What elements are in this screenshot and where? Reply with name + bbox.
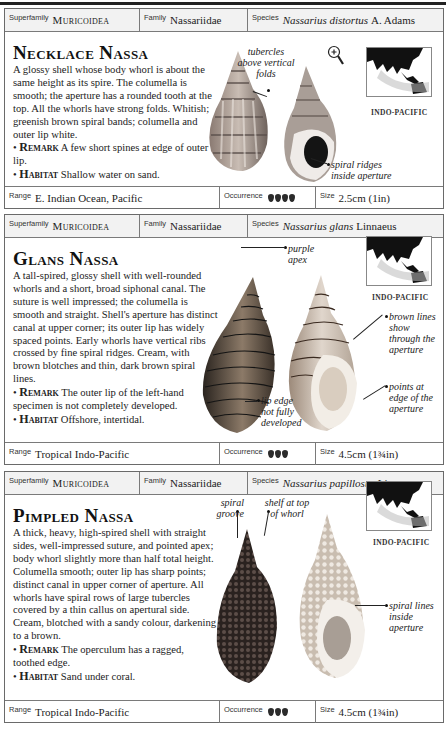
description-text: A tall-spired, glossy shell with well-ro… xyxy=(13,270,218,386)
occurrence-label: Occurrence xyxy=(224,447,263,456)
size-cell: Size 2.5cm (1in) xyxy=(315,187,443,209)
family-label: Family xyxy=(144,219,166,228)
range-cell: Range Tropical Indo-Pacific xyxy=(5,443,219,465)
annotation-spiral-ridges: spiral ridges inside aperture xyxy=(331,159,401,181)
remark-line: • Remark The outer lip of the left-hand … xyxy=(13,386,218,413)
occurrence-cell: Occurrence xyxy=(219,701,315,723)
annotation-points-edge: points at edge of the aperture xyxy=(389,381,443,414)
annotation-dot xyxy=(385,604,388,607)
superfamily-label: Superfamily xyxy=(9,13,49,22)
occurrence-shell-icon xyxy=(282,450,288,458)
size-label: Size xyxy=(320,191,335,200)
superfamily-value: Muricoidea xyxy=(53,220,110,232)
annotation-tubercles: tubercles above vertical folds xyxy=(237,46,295,79)
occurrence-shell-icon xyxy=(282,194,288,202)
habitat-label: Habitat xyxy=(19,412,58,426)
details-row: Range E. Indian Ocean, Pacific Occurrenc… xyxy=(5,186,443,209)
occurrence-cell: Occurrence xyxy=(219,187,315,209)
annotation-lip-edge: lip edge not fully developed xyxy=(261,395,305,428)
distribution-map xyxy=(366,236,432,286)
size-label: Size xyxy=(320,447,335,456)
size-cell: Size 4.5cm (1¾in) xyxy=(315,701,443,723)
size-label: Size xyxy=(320,705,335,714)
superfamily-cell: Superfamily Muricoidea xyxy=(5,9,139,31)
annotation-leader xyxy=(241,247,284,248)
annotation-shelf: shelf at top of whorl xyxy=(263,497,311,519)
species-author: Linnaeus xyxy=(356,220,396,232)
annotation-dot xyxy=(257,399,260,402)
classification-row: Superfamily Muricoidea Family Nassariida… xyxy=(5,215,443,238)
details-row: Range Tropical Indo-Pacific Occurrence S… xyxy=(5,442,443,465)
remark-label: Remark xyxy=(19,642,58,656)
size-value: 2.5cm (1in) xyxy=(339,192,390,204)
species-name: Nassarius glans xyxy=(283,220,354,232)
family-cell: Family Nassariidae xyxy=(139,215,247,237)
entry-title: Glans Nassa xyxy=(13,248,119,270)
entry-description: A glossy shell whose body whorl is about… xyxy=(13,64,213,182)
range-label: Range xyxy=(9,705,31,714)
annotation-dot xyxy=(327,163,330,166)
occurrence-rating xyxy=(268,450,288,458)
range-value: Tropical Indo-Pacific xyxy=(35,706,129,718)
species-label: Species xyxy=(252,476,279,485)
map-caption: INDO-PACIFIC xyxy=(373,538,429,547)
entry-title: Necklace Nassa xyxy=(13,42,148,64)
description-text: A thick, heavy, high-spired shell with s… xyxy=(13,527,218,643)
entry-description: A thick, heavy, high-spired shell with s… xyxy=(13,527,218,684)
distribution-map xyxy=(366,481,432,531)
entry-title: Pimpled Nassa xyxy=(13,505,134,527)
superfamily-label: Superfamily xyxy=(9,476,49,485)
range-cell: Range E. Indian Ocean, Pacific xyxy=(5,187,219,209)
occurrence-rating xyxy=(268,708,288,716)
habitat-label: Habitat xyxy=(19,669,58,683)
entry-pimpled-nassa: Superfamily Muricoidea Family Nassariida… xyxy=(4,471,444,723)
occurrence-shell-icon xyxy=(275,194,281,202)
superfamily-value: Muricoidea xyxy=(53,477,110,489)
map-caption: INDO-PACIFIC xyxy=(372,293,428,302)
occurrence-shell-icon xyxy=(268,450,274,458)
annotation-purple-apex: purple apex xyxy=(288,243,328,265)
species-author: A. Adams xyxy=(371,14,415,26)
remark-line: • Remark The operculum has a ragged, too… xyxy=(13,643,218,670)
distribution-map xyxy=(366,47,432,97)
shell-image-apertural xyxy=(293,512,371,682)
remark-line: • Remark A few short spines at edge of o… xyxy=(13,141,213,168)
annotation-leader xyxy=(237,512,238,538)
species-label: Species xyxy=(252,219,279,228)
map-caption: INDO-PACIFIC xyxy=(371,108,427,117)
habitat-text: Offshore, intertidal. xyxy=(61,414,145,425)
annotation-leader xyxy=(245,401,257,402)
shell-image-dorsal xyxy=(209,527,283,687)
species-name: Nassarius distortus xyxy=(283,14,368,26)
annotation-spiral-lines: spiral lines inside aperture xyxy=(389,600,443,633)
magnifier-plus-icon xyxy=(327,45,345,67)
family-label: Family xyxy=(144,476,166,485)
species-name: Nassarius papillosus xyxy=(283,477,375,489)
size-value: 4.5cm (1¾in) xyxy=(339,706,399,718)
occurrence-rating xyxy=(268,194,295,202)
habitat-text: Sand under coral. xyxy=(61,671,135,682)
entry-description: A tall-spired, glossy shell with well-ro… xyxy=(13,270,218,427)
superfamily-cell: Superfamily Muricoidea xyxy=(5,215,139,237)
family-value: Nassariidae xyxy=(170,220,221,232)
occurrence-shell-icon xyxy=(282,708,288,716)
top-rule xyxy=(0,2,446,5)
habitat-line: • Habitat Shallow water on sand. xyxy=(13,168,213,182)
habitat-text: Shallow water on sand. xyxy=(61,169,160,180)
annotation-spiral-groove: spiral groove xyxy=(210,497,244,519)
superfamily-cell: Superfamily Muricoidea xyxy=(5,472,139,494)
superfamily-label: Superfamily xyxy=(9,219,49,228)
remark-label: Remark xyxy=(19,140,58,154)
size-cell: Size 4.5cm (1¾in) xyxy=(315,443,443,465)
range-cell: Range Tropical Indo-Pacific xyxy=(5,701,219,723)
occurrence-shell-icon xyxy=(268,708,274,716)
habitat-line: • Habitat Offshore, intertidal. xyxy=(13,413,218,427)
range-label: Range xyxy=(9,447,31,456)
range-value: E. Indian Ocean, Pacific xyxy=(35,192,142,204)
superfamily-value: Muricoidea xyxy=(53,14,110,26)
annotation-brown-lines: brown lines show through the aperture xyxy=(389,311,441,355)
annotation-dot xyxy=(284,246,287,249)
details-row: Range Tropical Indo-Pacific Occurrence S… xyxy=(5,700,443,723)
family-value: Nassariidae xyxy=(170,14,221,26)
habitat-line: • Habitat Sand under coral. xyxy=(13,670,218,684)
